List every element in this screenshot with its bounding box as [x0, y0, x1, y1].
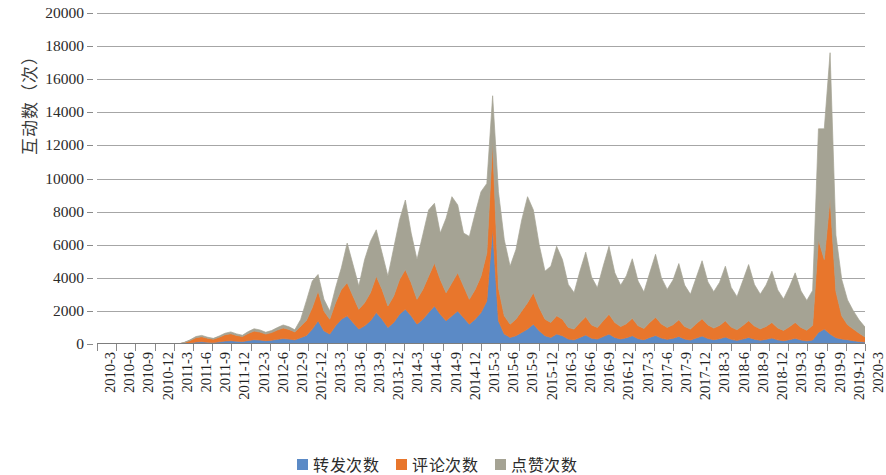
x-axis-tick — [327, 344, 328, 351]
y-axis-tick — [87, 212, 93, 213]
stacked-area-series — [97, 13, 865, 344]
x-axis-tick — [251, 344, 252, 351]
x-axis-tick-label: 2014-12 — [468, 352, 483, 400]
x-axis-tick — [750, 344, 751, 351]
y-axis-tick — [87, 145, 93, 146]
x-axis-tick-label: 2017-6 — [660, 352, 675, 393]
x-axis-tick — [212, 344, 213, 351]
x-axis-tick — [865, 344, 866, 351]
y-axis-tick — [87, 112, 93, 113]
x-axis-tick — [308, 344, 309, 351]
x-axis-tick-label: 2016-12 — [621, 352, 636, 400]
y-axis-tick-label: 14000 — [45, 105, 84, 121]
legend-item-likes[interactable]: 点赞次数 — [495, 452, 577, 475]
x-axis-tick — [827, 344, 828, 351]
y-axis-tick — [87, 179, 93, 180]
x-axis-tick — [692, 344, 693, 351]
x-axis-tick-label: 2017-9 — [679, 352, 694, 393]
x-axis-tick — [404, 344, 405, 351]
x-axis-tick — [711, 344, 712, 351]
x-axis-tick — [654, 344, 655, 351]
y-axis-tick-label: 2000 — [53, 303, 84, 319]
x-axis-tick — [174, 344, 175, 351]
y-axis-tick-label: 8000 — [53, 204, 84, 220]
x-axis-tick-label: 2015-3 — [487, 352, 502, 393]
chart-legend: 转发次数评论次数点赞次数 — [0, 452, 874, 475]
y-axis-tick — [87, 311, 93, 312]
x-axis-tick-label: 2011-6 — [199, 352, 214, 393]
legend-swatch-icon — [396, 459, 407, 470]
x-axis-tick — [270, 344, 271, 351]
x-axis-tick-label: 2016-3 — [564, 352, 579, 393]
y-axis-tick — [87, 79, 93, 80]
x-axis-tick-label: 2020-3 — [871, 352, 886, 393]
x-axis-tick — [443, 344, 444, 351]
y-axis-tick — [87, 278, 93, 279]
x-axis-tick — [366, 344, 367, 351]
y-axis-tick-label: 16000 — [45, 71, 84, 87]
legend-label: 评论次数 — [412, 452, 478, 475]
x-axis-tick-label: 2014-6 — [429, 352, 444, 393]
x-axis-tick — [769, 344, 770, 351]
x-axis-tick — [193, 344, 194, 351]
legend-item-comments[interactable]: 评论次数 — [396, 452, 478, 475]
x-axis-tick — [846, 344, 847, 351]
x-axis-tick-label: 2019-12 — [852, 352, 867, 400]
x-axis-tick-label: 2013-3 — [333, 352, 348, 393]
y-axis-tick-label: 0 — [76, 336, 84, 352]
y-axis-tick-label: 6000 — [53, 237, 84, 253]
x-axis-tick — [462, 344, 463, 351]
x-axis-tick — [615, 344, 616, 351]
x-axis-tick — [231, 344, 232, 351]
y-axis-tick — [87, 245, 93, 246]
x-axis-tick-label: 2010-3 — [103, 352, 118, 393]
y-axis-tick-label: 20000 — [45, 5, 84, 21]
legend-label: 转发次数 — [313, 452, 379, 475]
x-axis-tick — [519, 344, 520, 351]
x-axis-tick-label: 2014-9 — [449, 352, 464, 393]
x-axis-tick — [577, 344, 578, 351]
legend-swatch-icon — [495, 459, 506, 470]
x-axis-tick-label: 2015-6 — [506, 352, 521, 393]
y-axis-tick-label: 18000 — [45, 38, 84, 54]
y-axis-tick-label: 4000 — [53, 270, 84, 286]
y-axis-tick-labels: 0200040006000800010000120001400016000180… — [0, 0, 97, 360]
x-axis-tick — [97, 344, 98, 351]
legend-label: 点赞次数 — [511, 452, 577, 475]
legend-item-forwards[interactable]: 转发次数 — [297, 452, 379, 475]
x-axis-tick — [423, 344, 424, 351]
x-axis-ticks — [97, 344, 865, 351]
x-axis-tick-label: 2010-6 — [122, 352, 137, 393]
x-axis-tick — [807, 344, 808, 351]
x-axis-tick-label: 2015-12 — [545, 352, 560, 400]
x-axis-tick-label: 2018-9 — [756, 352, 771, 393]
x-axis-tick-label: 2013-9 — [372, 352, 387, 393]
legend-swatch-icon — [297, 459, 308, 470]
x-axis-tick-label: 2012-6 — [276, 352, 291, 393]
x-axis-tick-label: 2013-6 — [353, 352, 368, 393]
y-axis-tick — [87, 13, 93, 14]
x-axis-tick-label: 2012-9 — [295, 352, 310, 393]
x-axis-tick-labels: 2010-32010-62010-92010-122011-32011-6201… — [97, 352, 865, 442]
x-axis-tick-label: 2010-12 — [161, 352, 176, 400]
y-axis-tick — [87, 46, 93, 47]
x-axis-tick — [500, 344, 501, 351]
x-axis-tick-label: 2018-3 — [717, 352, 732, 393]
x-axis-tick — [347, 344, 348, 351]
x-axis-tick-label: 2017-3 — [641, 352, 656, 393]
x-axis-tick — [558, 344, 559, 351]
x-axis-tick-label: 2019-9 — [833, 352, 848, 393]
x-axis-tick-label: 2014-3 — [410, 352, 425, 393]
x-axis-tick — [596, 344, 597, 351]
x-axis-tick-label: 2018-6 — [737, 352, 752, 393]
x-axis-tick — [788, 344, 789, 351]
x-axis-tick-label: 2018-12 — [775, 352, 790, 400]
plot-area — [97, 13, 865, 344]
x-axis-tick-label: 2010-9 — [141, 352, 156, 393]
x-axis-tick — [673, 344, 674, 351]
x-axis-tick — [155, 344, 156, 351]
x-axis-tick-label: 2019-6 — [813, 352, 828, 393]
x-axis-tick-label: 2012-12 — [314, 352, 329, 400]
y-axis-tick-label: 10000 — [45, 171, 84, 187]
